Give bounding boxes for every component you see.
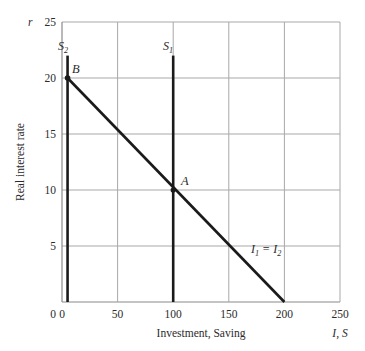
curve-label-equals: = I xyxy=(259,242,278,256)
y-tick-25: 25 xyxy=(45,16,57,28)
x-tick-250: 250 xyxy=(331,308,349,320)
curve-label-i2-sub: 2 xyxy=(277,249,281,258)
point-b-label: B xyxy=(72,62,80,76)
y-tick-10: 10 xyxy=(45,184,57,196)
curve-label-s1-sub: 1 xyxy=(169,46,173,55)
plot-background xyxy=(62,22,340,302)
curve-label-investment: I1 = I2 xyxy=(250,242,281,258)
x-tick-50: 50 xyxy=(112,308,124,320)
x-axis-title: Investment, Saving xyxy=(157,327,246,340)
y-tick-15: 15 xyxy=(45,128,57,140)
x-tick-100: 100 xyxy=(165,308,183,320)
curve-label-s2-sub: 2 xyxy=(64,46,68,55)
y-axis-title: Real interest rate xyxy=(14,123,26,201)
point-a-marker xyxy=(171,187,176,192)
chart-svg: S2 S1 I1 = I2 A B 25 20 15 10 5 0 0 50 1… xyxy=(0,0,365,351)
x-tick-0: 0 xyxy=(59,308,65,320)
y-tick-labels: 25 20 15 10 5 0 xyxy=(45,16,57,320)
x-tick-200: 200 xyxy=(276,308,294,320)
y-tick-20: 20 xyxy=(45,72,57,84)
point-a-label: A xyxy=(180,174,189,188)
economics-chart-figure: S2 S1 I1 = I2 A B 25 20 15 10 5 0 0 50 1… xyxy=(0,0,365,351)
y-tick-5: 5 xyxy=(50,240,56,252)
y-tick-0: 0 xyxy=(50,308,56,320)
x-tick-150: 150 xyxy=(220,308,238,320)
point-b-marker xyxy=(65,75,71,81)
x-tick-labels: 0 50 100 150 200 250 xyxy=(59,308,349,320)
y-axis-symbol: r xyxy=(28,16,33,28)
x-axis-symbol: I, S xyxy=(331,327,348,340)
